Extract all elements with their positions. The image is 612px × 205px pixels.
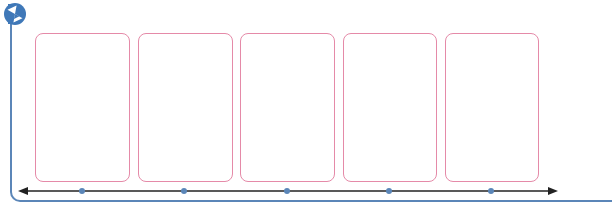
timeline-marker-5 [488, 188, 494, 194]
timeline-marker-3 [284, 188, 290, 194]
timeline-marker-2 [181, 188, 187, 194]
timeline-marker-1 [79, 188, 85, 194]
timeline-marker-4 [386, 188, 392, 194]
